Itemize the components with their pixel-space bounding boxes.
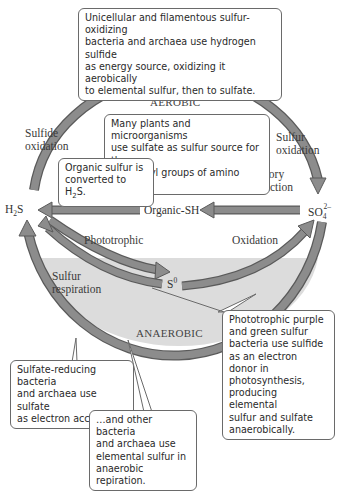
phototrophic-label: Phototrophic xyxy=(84,234,143,247)
callout-organic-sulfur: Organic sulfur is converted to H2S. xyxy=(58,158,154,207)
so4-node: SO42– xyxy=(308,204,331,221)
callout-phototrophic: Phototrophic purpleand green sulfurbacte… xyxy=(222,310,335,440)
organic-sh-node: Organic-SH xyxy=(144,204,199,216)
sulfide-oxidation-label: Sulfideoxidation xyxy=(25,127,68,153)
anaerobic-label: ANAEROBIC xyxy=(136,327,203,339)
callout-sulfur-oxidizers: Unicellular and filamentous sulfur-oxidi… xyxy=(78,8,282,101)
sulfur-respiration-label: Sulfurrespiration xyxy=(52,270,101,296)
s0-mid-node: S0 xyxy=(167,276,177,290)
callout-other-bacteria: …and other bacteriaand archaea useelemen… xyxy=(89,410,197,491)
h2s-node: H2S xyxy=(5,203,23,218)
sulfur-oxidation-label: Sulfuroxidation xyxy=(276,131,319,157)
oxidation-label: Oxidation xyxy=(232,234,278,247)
